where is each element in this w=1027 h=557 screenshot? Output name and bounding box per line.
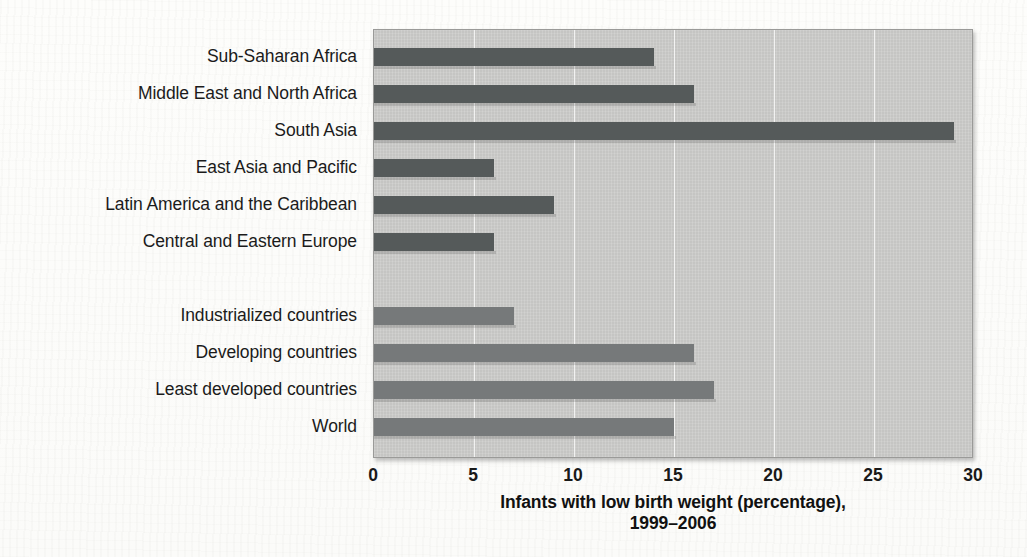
category-label-east-asia-and-pacific: East Asia and Pacific bbox=[196, 158, 357, 176]
bar-industrialized-countries bbox=[374, 307, 514, 325]
category-label-developing-countries: Developing countries bbox=[196, 343, 357, 361]
category-label-latin-america-and-the-caribbean: Latin America and the Caribbean bbox=[105, 195, 357, 213]
x-tick-label-15: 15 bbox=[663, 465, 682, 485]
x-axis-tick-labels: 051015202530 bbox=[373, 465, 973, 489]
bar-central-and-eastern-europe bbox=[374, 233, 494, 251]
bar-middle-east-and-north-africa bbox=[374, 85, 694, 103]
x-tick-label-0: 0 bbox=[368, 465, 378, 485]
category-label-world: World bbox=[312, 417, 357, 435]
x-tick-label-25: 25 bbox=[863, 465, 882, 485]
bar-world bbox=[374, 418, 674, 436]
category-label-industrialized-countries: Industrialized countries bbox=[180, 306, 357, 324]
bar-latin-america-and-the-caribbean bbox=[374, 196, 554, 214]
category-label-central-and-eastern-europe: Central and Eastern Europe bbox=[143, 232, 357, 250]
category-axis-labels: Sub-Saharan AfricaMiddle East and North … bbox=[0, 29, 365, 458]
bar-south-asia bbox=[374, 122, 954, 140]
x-axis-title-line-1: Infants with low birth weight (percentag… bbox=[500, 492, 846, 512]
gridline-20 bbox=[774, 30, 775, 457]
x-tick-label-30: 30 bbox=[963, 465, 982, 485]
bar-developing-countries bbox=[374, 344, 694, 362]
x-axis-title-line-2: 1999–2006 bbox=[373, 513, 973, 534]
x-tick-label-5: 5 bbox=[468, 465, 478, 485]
bar-least-developed-countries bbox=[374, 381, 714, 399]
x-axis-title: Infants with low birth weight (percentag… bbox=[373, 492, 973, 534]
x-tick-label-10: 10 bbox=[563, 465, 582, 485]
chart-figure: Sub-Saharan AfricaMiddle East and North … bbox=[0, 0, 1027, 557]
bar-sub-saharan-africa bbox=[374, 48, 654, 66]
plot-area bbox=[373, 29, 973, 458]
gridline-25 bbox=[874, 30, 875, 457]
category-label-south-asia: South Asia bbox=[274, 121, 357, 139]
bar-east-asia-and-pacific bbox=[374, 159, 494, 177]
category-label-least-developed-countries: Least developed countries bbox=[155, 380, 357, 398]
x-tick-label-20: 20 bbox=[763, 465, 782, 485]
category-label-sub-saharan-africa: Sub-Saharan Africa bbox=[207, 47, 357, 65]
category-label-middle-east-and-north-africa: Middle East and North Africa bbox=[138, 84, 357, 102]
